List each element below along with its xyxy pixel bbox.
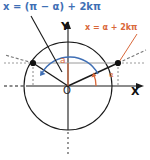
supplementary-solution-label: x = (π − α) + 2kπ — [3, 2, 101, 12]
value-a-label: a — [60, 56, 66, 65]
alpha-angle-label: α — [109, 72, 114, 79]
terminal-ray-left-extension — [5, 55, 33, 63]
origin-label: O — [63, 86, 71, 96]
principal-solution-label: x = α + 2kπ — [85, 24, 137, 32]
x-axis-label: X — [131, 86, 139, 97]
y-axis-label: Y — [61, 21, 69, 32]
supplementary-angle-arc — [42, 57, 98, 74]
diagram-canvas: x = (π − α) + 2kπ x = α + 2kπ a α O Y X — [0, 0, 150, 160]
solution-point-right — [115, 60, 121, 66]
terminal-ray-left — [33, 63, 68, 86]
solution-point-left — [30, 60, 36, 66]
